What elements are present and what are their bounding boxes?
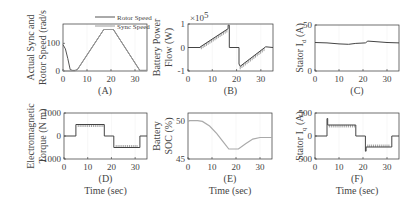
x-tick-label: 0 <box>186 74 191 84</box>
y-axis-label: Flow (W) <box>163 28 175 67</box>
series-line <box>188 25 273 66</box>
chart-panel-c: 0102030050(C)Stator Id (A) <box>294 20 399 97</box>
y-axis-label: Battery <box>151 121 162 150</box>
x-tick-label: 20 <box>232 162 242 172</box>
x-tick-label: 0 <box>186 162 191 172</box>
x-tick-label: 20 <box>232 74 242 84</box>
x-tick-label: 30 <box>131 162 141 172</box>
y-tick-label: 1 <box>181 19 186 29</box>
x-tick-label: 30 <box>383 74 393 84</box>
panel-caption: (A) <box>98 85 112 97</box>
x-tick-label: 0 <box>62 162 67 172</box>
x-tick-label: 30 <box>256 162 266 172</box>
x-tick-label: 30 <box>256 74 266 84</box>
x-tick-label: 10 <box>335 74 345 84</box>
y-tick-label: 0 <box>308 131 313 141</box>
x-tick-label: 10 <box>83 162 93 172</box>
chart-panel-a: 01020300100(A)Actual Sync andRotor Speed… <box>25 10 152 97</box>
y-tick-label: 0 <box>56 66 61 76</box>
y-tick-label: 100 <box>47 38 61 48</box>
axes-box <box>315 25 399 71</box>
chart-panel-f: 0102030-5000500(F)Time (sec)Stator Iq (A… <box>294 108 399 197</box>
x-axis-label: Time (sec) <box>336 185 379 197</box>
x-tick-label: 0 <box>313 74 318 84</box>
x-tick-label: 10 <box>208 74 218 84</box>
x-tick-label: 10 <box>83 74 93 84</box>
chart-panel-d: 0102030-100001000(D)Time (sec)Electromag… <box>25 103 147 197</box>
x-tick-label: 20 <box>107 162 117 172</box>
panel-caption: (E) <box>224 173 237 185</box>
y-tick-label: 50 <box>176 116 186 126</box>
axes-box <box>63 24 147 71</box>
x-tick-label: 0 <box>313 162 318 172</box>
y-axis-label: Electromagnetic <box>25 103 36 169</box>
panel-caption: (B) <box>224 85 237 97</box>
panel-caption: (C) <box>350 85 363 97</box>
y-axis-label: SOC (%) <box>163 118 175 155</box>
legend-label: Rotor Speed <box>117 14 152 22</box>
figure-canvas: 01020300100(A)Actual Sync andRotor Speed… <box>0 0 413 208</box>
series-line <box>188 121 272 149</box>
y-tick-label: 0 <box>57 131 62 141</box>
x-axis-label: Time (sec) <box>209 185 252 197</box>
series-line <box>64 125 147 148</box>
y-tick-label: -1 <box>178 66 186 76</box>
chart-panel-b: 0102030-101×105(B)Battery PowerFlow (W) <box>151 10 273 97</box>
x-tick-label: 20 <box>359 162 369 172</box>
y-tick-label: 0 <box>308 66 313 76</box>
y-axis-label: Torque (N m) <box>37 109 49 164</box>
series-line <box>315 41 399 44</box>
chart-panel-e: 01020304550(E)Time (sec)BatterySOC (%) <box>151 113 272 197</box>
x-tick-label: 20 <box>359 74 369 84</box>
x-tick-label: 30 <box>383 162 393 172</box>
y-axis-label: Stator Id (A) <box>294 23 308 73</box>
legend-label: Sync Speed <box>117 23 150 31</box>
panel-caption: (F) <box>351 173 363 185</box>
x-tick-label: 20 <box>107 74 117 84</box>
y-axis-label: Rotor Speed (rad/s <box>37 10 49 85</box>
y-axis-label: Battery Power <box>151 18 162 76</box>
x-tick-label: 0 <box>61 74 66 84</box>
y-axis-label: Actual Sync and <box>25 14 36 80</box>
axes-box <box>188 113 272 159</box>
y-tick-label: 0 <box>181 43 186 53</box>
y-tick-label: 45 <box>176 154 186 164</box>
x-tick-label: 30 <box>131 74 141 84</box>
series-line <box>63 30 147 72</box>
series-line <box>63 30 147 71</box>
x-tick-label: 10 <box>335 162 345 172</box>
multiplier-exponent: 5 <box>204 10 209 20</box>
panel-caption: (D) <box>99 173 113 185</box>
series-line <box>315 119 399 152</box>
x-tick-label: 10 <box>208 162 218 172</box>
multiplier-label: ×10 <box>190 13 205 23</box>
x-axis-label: Time (sec) <box>84 185 127 197</box>
